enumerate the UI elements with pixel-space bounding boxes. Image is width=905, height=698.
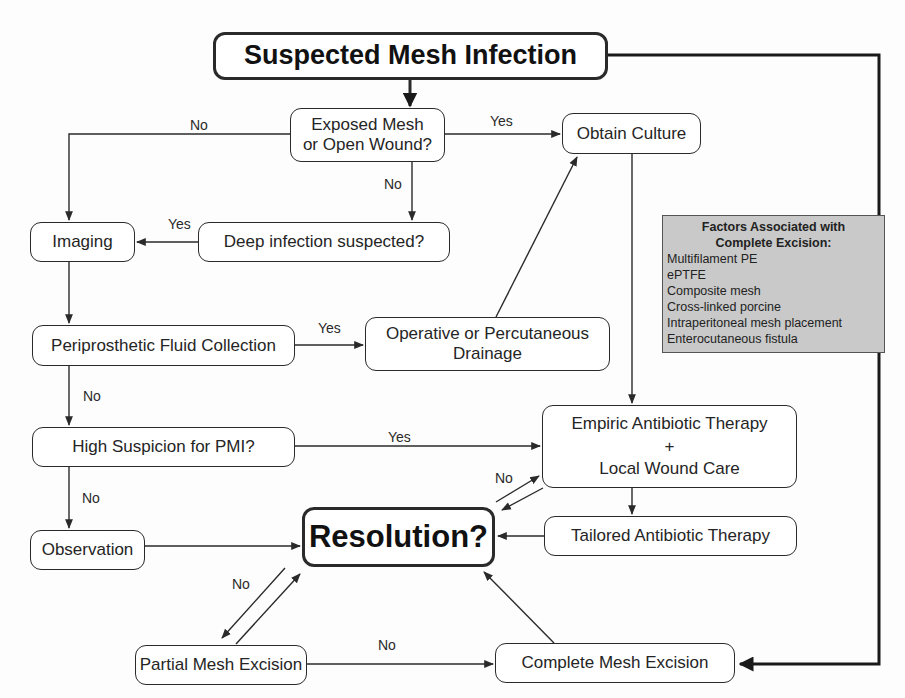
factor-item: Composite mesh [667,283,880,299]
step-obtain-culture: Obtain Culture [562,113,701,154]
resolution-text: Resolution? [309,519,488,555]
edge-label-exposed-no-down: No [384,176,402,192]
factor-item: Multifilament PE [667,251,880,267]
empiric-plus: + [665,437,675,457]
obtain-culture-text: Obtain Culture [577,124,687,144]
edge-label-resolution-no-empiric: No [495,470,513,486]
step-drainage: Operative or Percutaneous Drainage [365,317,610,371]
step-tailored-therapy: Tailored Antibiotic Therapy [544,516,797,556]
decision-periprosthetic-fluid: Periprosthetic Fluid Collection [32,325,295,366]
exposed-mesh-line1: Exposed Mesh [311,115,423,135]
step-complete-excision: Complete Mesh Excision [495,643,735,683]
drainage-line2: Drainage [453,344,522,364]
edge-label-exposed-yes: Yes [490,113,513,129]
decision-high-suspicion: High Suspicion for PMI? [32,427,295,467]
factor-item: Intraperitoneal mesh placement [667,315,880,331]
edge-label-deep-yes: Yes [168,216,191,232]
periprosthetic-text: Periprosthetic Fluid Collection [51,336,276,356]
step-partial-excision: Partial Mesh Excision [135,645,307,685]
step-empiric-therapy: Empiric Antibiotic Therapy + Local Wound… [542,405,797,488]
factors-complete-excision-box: Factors Associated with Complete Excisio… [662,215,885,353]
decision-deep-infection: Deep infection suspected? [198,222,450,262]
edge-label-suspicion-no: No [82,490,100,506]
factors-heading-line1: Factors Associated with [667,219,880,235]
edge-label-resolution-no-partial: No [232,576,250,592]
drainage-line1: Operative or Percutaneous [386,324,589,344]
edge-label-fluid-yes: Yes [318,320,341,336]
empiric-line1: Empiric Antibiotic Therapy [571,414,767,434]
observation-text: Observation [42,540,134,560]
factor-item: Cross-linked porcine [667,299,880,315]
decision-resolution: Resolution? [302,507,495,567]
empiric-line3: Local Wound Care [599,459,740,479]
tailored-text: Tailored Antibiotic Therapy [571,526,770,546]
imaging-text: Imaging [52,232,112,252]
partial-excision-text: Partial Mesh Excision [140,655,303,675]
step-imaging: Imaging [30,222,135,262]
edge-label-partial-no-complete: No [378,637,396,653]
exposed-mesh-line2: or Open Wound? [303,135,432,155]
high-suspicion-text: High Suspicion for PMI? [72,437,254,457]
edge-label-suspicion-yes: Yes [388,429,411,445]
decision-exposed-mesh: Exposed Mesh or Open Wound? [290,108,445,162]
flowchart-canvas: Suspected Mesh Infection Exposed Mesh or… [0,0,905,698]
factors-heading-line2: Complete Excision: [667,235,880,251]
title-text: Suspected Mesh Infection [244,40,577,71]
edge-label-fluid-no: No [83,388,101,404]
start-node-suspected-mesh-infection: Suspected Mesh Infection [213,32,608,80]
edge-label-exposed-no-left: No [190,117,208,133]
factor-item: Enterocutaneous fistula [667,331,880,347]
deep-infection-text: Deep infection suspected? [224,232,424,252]
factor-item: ePTFE [667,267,880,283]
complete-excision-text: Complete Mesh Excision [521,653,708,673]
step-observation: Observation [30,530,145,570]
